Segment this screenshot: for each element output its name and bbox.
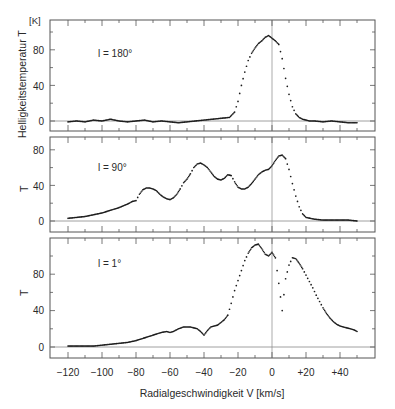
panel-top-label: l = 180° [98, 48, 132, 59]
ytick-bottom-0: 0 [38, 342, 44, 353]
hi-spectra-figure: l = 180° [K] Helligkeitstemperatur T l =… [0, 0, 395, 409]
panel-bottom-label: l = 1° [98, 258, 121, 269]
x-ticks: −120 −100 −80 −60 −40 −20 0 +20 +40 [57, 367, 349, 378]
xtick-label: −100 [91, 367, 114, 378]
ytick-top-40: 40 [33, 81, 45, 92]
ytick-middle-80: 80 [33, 145, 45, 156]
ytick-top-0: 0 [38, 116, 44, 127]
data-series [67, 35, 358, 347]
panel-top-frame [50, 20, 375, 131]
ytick-middle-0: 0 [38, 216, 44, 227]
panel-bottom-frame [50, 238, 375, 358]
chart-canvas: l = 180° [K] Helligkeitstemperatur T l =… [0, 0, 395, 409]
ytick-middle-40: 40 [33, 181, 45, 192]
panel-bottom: l = 1° T [18, 238, 375, 358]
xtick-label: +20 [298, 367, 315, 378]
ytick-top-80: 80 [33, 45, 45, 56]
xtick-label: −40 [196, 367, 213, 378]
xtick-label: 0 [269, 367, 275, 378]
panel-middle-frame [50, 137, 375, 232]
y-unit-label: [K] [29, 15, 41, 26]
panel-middle-label: l = 90° [98, 162, 127, 173]
xtick-label: −120 [57, 367, 80, 378]
panel-bottom-ylabel: T [18, 289, 30, 296]
y-ticks-top: 0 40 80 [33, 45, 45, 127]
xtick-label: −80 [128, 367, 145, 378]
xtick-label: −20 [230, 367, 247, 378]
panel-middle-ylabel: T [18, 185, 30, 192]
y-ticks-middle: 0 40 80 [33, 145, 45, 227]
y-axis-main-label: Helligkeitstemperatur T [16, 30, 28, 138]
x-axis-label: Radialgeschwindigkeit V [km/s] [140, 387, 285, 399]
y-ticks-bottom: 0 40 80 [33, 269, 45, 353]
xtick-label: −60 [162, 367, 179, 378]
ytick-bottom-40: 40 [33, 305, 45, 316]
panel-top: l = 180° [K] Helligkeitstemperatur T [16, 15, 375, 138]
ytick-bottom-80: 80 [33, 269, 45, 280]
xtick-label: +40 [332, 367, 349, 378]
tick-marks [50, 20, 375, 358]
